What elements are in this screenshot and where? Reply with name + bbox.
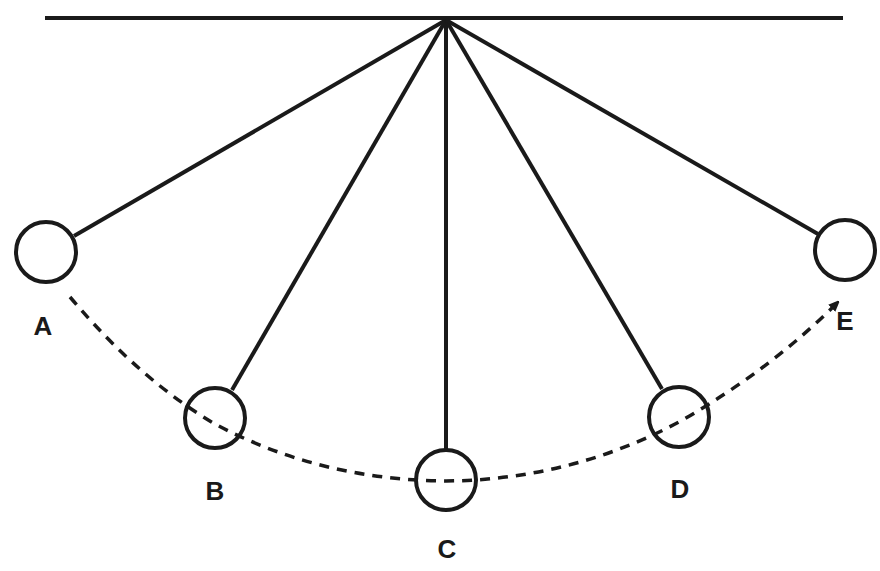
- label-d: D: [671, 474, 690, 504]
- label-b: B: [206, 476, 225, 506]
- bob-a: [16, 222, 76, 282]
- label-e: E: [836, 306, 853, 336]
- bob-e: [815, 220, 875, 280]
- bob-d: [649, 387, 709, 447]
- string-e: [446, 20, 818, 234]
- string-d: [446, 20, 662, 389]
- label-a: A: [34, 311, 53, 341]
- strings: [74, 20, 818, 450]
- string-b: [232, 20, 446, 390]
- string-a: [74, 20, 446, 236]
- bob-b: [185, 388, 245, 448]
- swing-path: [70, 297, 836, 481]
- label-c: C: [438, 534, 457, 564]
- pendulum-diagram: A B C D E: [0, 0, 880, 571]
- labels: A B C D E: [34, 306, 854, 564]
